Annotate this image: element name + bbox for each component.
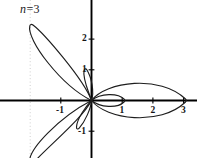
x-tick-label--1: -1 xyxy=(56,106,64,116)
rose-curve xyxy=(30,24,187,158)
y-tick-label-2: 2 xyxy=(82,34,87,44)
polar-rose-figure: n=3 -1 1 2 3 2 1 -1 xyxy=(0,0,197,158)
x-tick-label-3: 3 xyxy=(181,106,186,116)
title-value: 3 xyxy=(34,2,40,16)
page-title: n=3 xyxy=(20,2,40,17)
x-tick-label-1: 1 xyxy=(120,106,125,116)
y-tick-label--1: -1 xyxy=(78,127,86,137)
axes xyxy=(0,0,197,158)
title-equals: = xyxy=(26,2,33,16)
y-tick-label-1: 1 xyxy=(82,65,87,75)
plot-canvas xyxy=(0,0,197,158)
x-tick-label-2: 2 xyxy=(151,106,156,116)
